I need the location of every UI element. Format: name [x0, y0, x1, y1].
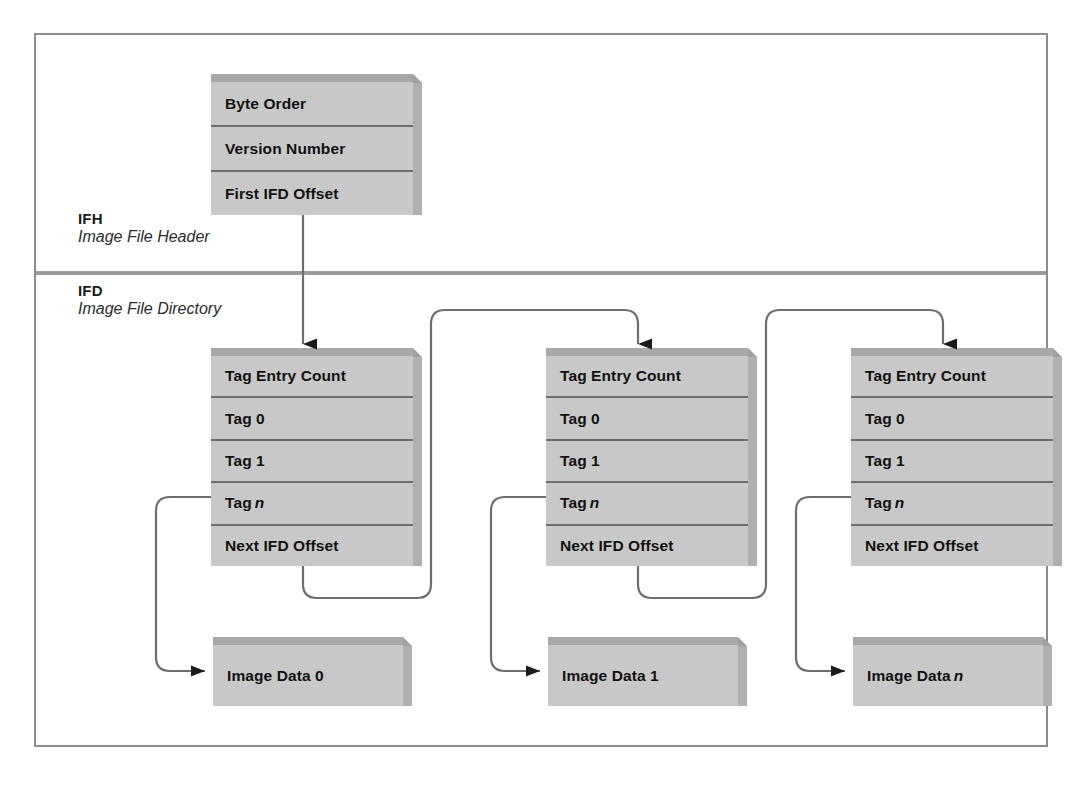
block-top-slope [413, 74, 422, 83]
image-data-block-0: Image Data 0 [213, 637, 412, 706]
row-label: Image Data [867, 667, 951, 685]
row-label: Tag Entry Count [865, 367, 986, 385]
image-data-block-n: Image Datan [853, 637, 1052, 706]
block-side-shadow [738, 646, 747, 706]
tiff-structure-figure: IFH Image File Header IFD Image File Dir… [0, 0, 1086, 792]
row-label: Tag 1 [865, 452, 905, 470]
block-side-shadow [1053, 357, 1062, 566]
row-label: Tag Entry Count [560, 367, 681, 385]
row-label-italic: n [587, 494, 600, 512]
row-label: First IFD Offset [225, 185, 339, 203]
ifh-row-version-number: Version Number [211, 125, 413, 170]
row-label: Tag [225, 494, 252, 512]
ifd1-row-tag-0: Tag 0 [546, 396, 748, 438]
image-data-0-row: Image Data 0 [213, 645, 403, 706]
ifd-block-n: Tag Entry Count Tag 0 Tag 1 Tagn Next IF… [851, 348, 1062, 566]
row-label: Tag 0 [560, 410, 600, 428]
image-file-header-block: Byte Order Version Number First IFD Offs… [211, 74, 422, 215]
ifdn-row-tag-0: Tag 0 [851, 396, 1053, 438]
ifd1-row-tag-entry-count: Tag Entry Count [546, 356, 748, 396]
row-label: Next IFD Offset [865, 537, 978, 555]
ifd0-row-tag-n: Tagn [211, 481, 413, 523]
section-label-ifh: IFH Image File Header [78, 210, 210, 247]
ifd0-row-next-ifd-offset: Next IFD Offset [211, 524, 413, 566]
ifd-block-0: Tag Entry Count Tag 0 Tag 1 Tagn Next IF… [211, 348, 422, 566]
block-top-slope [403, 637, 412, 646]
block-side-shadow [413, 83, 422, 215]
ifdn-row-next-ifd-offset: Next IFD Offset [851, 524, 1053, 566]
ifd-block-1: Tag Entry Count Tag 0 Tag 1 Tagn Next IF… [546, 348, 757, 566]
block-side-shadow [1043, 646, 1052, 706]
ifd0-row-tag-1: Tag 1 [211, 439, 413, 481]
block-side-shadow [748, 357, 757, 566]
section-label-ifd: IFD Image File Directory [78, 282, 221, 319]
ifdn-row-tag-n: Tagn [851, 481, 1053, 523]
block-side-shadow [413, 357, 422, 566]
row-label: Tag 1 [560, 452, 600, 470]
ifdn-row-tag-1: Tag 1 [851, 439, 1053, 481]
row-label: Next IFD Offset [560, 537, 673, 555]
section-abbr-ifh: IFH [78, 210, 210, 227]
image-data-n-row: Image Datan [853, 645, 1043, 706]
row-label: Tag [865, 494, 892, 512]
row-label: Tag [560, 494, 587, 512]
row-label: Tag 1 [225, 452, 265, 470]
row-label: Byte Order [225, 95, 306, 113]
row-label: Next IFD Offset [225, 537, 338, 555]
row-label-italic: n [252, 494, 265, 512]
block-top-slope [413, 348, 422, 357]
block-side-shadow [403, 646, 412, 706]
row-label: Image Data 1 [562, 667, 659, 685]
row-label-italic: n [892, 494, 905, 512]
row-label: Tag Entry Count [225, 367, 346, 385]
block-top-slope [1053, 348, 1062, 357]
ifd1-row-next-ifd-offset: Next IFD Offset [546, 524, 748, 566]
section-divider [36, 271, 1046, 275]
block-top-slope [738, 637, 747, 646]
section-abbr-ifd: IFD [78, 282, 221, 299]
image-data-1-row: Image Data 1 [548, 645, 738, 706]
block-top-slope [748, 348, 757, 357]
ifh-row-byte-order: Byte Order [211, 82, 413, 125]
row-label: Image Data 0 [227, 667, 324, 685]
section-full-ifd: Image File Directory [78, 299, 221, 319]
ifd0-row-tag-entry-count: Tag Entry Count [211, 356, 413, 396]
row-label: Tag 0 [225, 410, 265, 428]
ifd1-row-tag-1: Tag 1 [546, 439, 748, 481]
row-label: Tag 0 [865, 410, 905, 428]
ifdn-row-tag-entry-count: Tag Entry Count [851, 356, 1053, 396]
section-full-ifh: Image File Header [78, 227, 210, 247]
row-label: Version Number [225, 140, 345, 158]
block-top-slope [1043, 637, 1052, 646]
ifd1-row-tag-n: Tagn [546, 481, 748, 523]
ifh-row-first-ifd-offset: First IFD Offset [211, 170, 413, 215]
row-label-italic: n [951, 667, 964, 685]
ifd0-row-tag-0: Tag 0 [211, 396, 413, 438]
image-data-block-1: Image Data 1 [548, 637, 747, 706]
